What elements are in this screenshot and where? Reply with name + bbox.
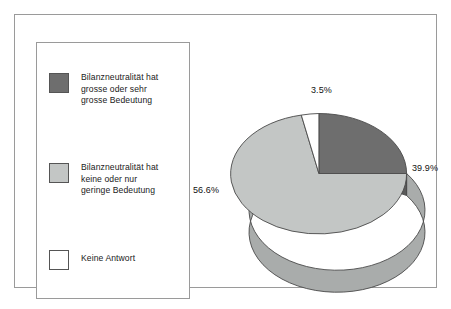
pie-value-label-keine-antwort: 3.5% [311, 85, 332, 95]
legend-item-grosse-bedeutung[interactable]: Bilanzneutralität hat grosse oder sehr g… [49, 72, 158, 107]
chart-frame: Bilanzneutralität hat grosse oder sehr g… [14, 14, 437, 288]
legend-swatch-light [49, 163, 69, 183]
pie-value-label-grosse-bedeutung: 39.9% [412, 163, 438, 173]
legend-label-geringe-bedeutung: Bilanzneutralität hat keine oder nur ger… [81, 162, 158, 197]
pie-value-label-geringe-bedeutung: 56.6% [193, 185, 219, 195]
legend-item-keine-antwort[interactable]: Keine Antwort [49, 249, 135, 270]
legend-label-keine-antwort: Keine Antwort [81, 253, 135, 265]
pie-slice-dark-top [319, 114, 407, 174]
chart-screenshot: Bilanzneutralität hat grosse oder sehr g… [0, 0, 451, 309]
legend-swatch-white [49, 250, 69, 270]
legend-label-grosse-bedeutung: Bilanzneutralität hat grosse oder sehr g… [81, 72, 158, 107]
legend-item-geringe-bedeutung[interactable]: Bilanzneutralität hat keine oder nur ger… [49, 162, 158, 197]
chart-legend: Bilanzneutralität hat grosse oder sehr g… [36, 42, 190, 299]
legend-swatch-dark [49, 73, 69, 93]
caption-sliver [18, 303, 278, 309]
pie-chart-area: 3.5% 39.9% 56.6% [190, 42, 451, 299]
